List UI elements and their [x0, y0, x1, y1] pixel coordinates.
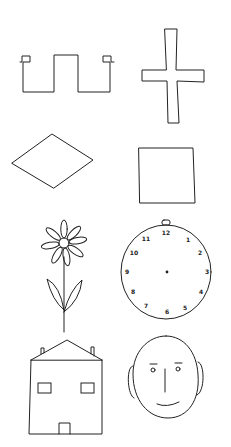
- clock-number-9: 9: [125, 268, 129, 275]
- clock-crown-icon: [162, 220, 170, 225]
- drawing-sheet: 12 1 2 3 4 5 6 7 8 9 10 11: [0, 0, 231, 447]
- clock-number-11: 11: [142, 235, 150, 242]
- clock-number-6: 6: [165, 308, 169, 315]
- square-wave-figure: [20, 55, 114, 92]
- house-window-left: [38, 383, 51, 393]
- clock-number-2: 2: [198, 249, 202, 256]
- diamond-figure: [12, 134, 93, 188]
- clock-number-8: 8: [131, 288, 135, 295]
- eye-left: [151, 368, 155, 372]
- cross-figure: [142, 29, 204, 123]
- clock-figure: 12 1 2 3 4 5 6 7 8 9 10 11: [121, 220, 211, 319]
- figures-canvas: 12 1 2 3 4 5 6 7 8 9 10 11: [0, 0, 231, 447]
- clock-number-10: 10: [130, 249, 138, 256]
- clock-number-3: 3: [205, 268, 209, 275]
- clock-number-4: 4: [199, 288, 203, 295]
- clock-center-dot: [166, 271, 169, 274]
- house-window-right: [81, 383, 94, 393]
- mouth: [157, 402, 179, 406]
- clock-number-5: 5: [183, 304, 187, 311]
- flower-figure: [41, 220, 87, 332]
- clock-number-12: 12: [162, 229, 170, 236]
- house-door: [59, 423, 70, 434]
- face-figure: [128, 336, 203, 418]
- clock-number-7: 7: [144, 302, 148, 309]
- square-figure: [139, 148, 195, 203]
- house-figure: [29, 340, 102, 434]
- clock-number-1: 1: [186, 236, 190, 243]
- eye-right: [176, 367, 180, 371]
